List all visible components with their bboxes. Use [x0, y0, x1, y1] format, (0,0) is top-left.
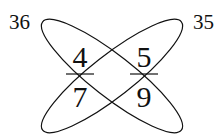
cross-multiplication-diagram: 4 7 5 9 36 35	[0, 0, 224, 140]
ellipse-top-right-to-bottom-left	[30, 5, 195, 140]
numerator-right: 5	[137, 40, 152, 73]
product-left: 36	[9, 10, 30, 34]
denominator-left: 7	[73, 80, 88, 113]
ellipse-top-left-to-bottom-right	[30, 5, 195, 140]
denominator-right: 9	[137, 80, 152, 113]
product-right: 35	[193, 10, 214, 34]
numerator-left: 4	[73, 40, 88, 73]
